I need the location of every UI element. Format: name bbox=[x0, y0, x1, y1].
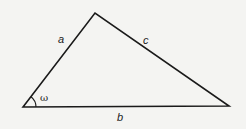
side-label-a: a bbox=[58, 33, 64, 45]
side-label-b: b bbox=[117, 111, 123, 123]
triangle-diagram: a c b ω bbox=[0, 0, 246, 129]
angle-arc bbox=[31, 97, 36, 107]
angle-label-omega: ω bbox=[40, 92, 48, 103]
side-label-c: c bbox=[143, 34, 149, 46]
triangle bbox=[23, 13, 229, 107]
